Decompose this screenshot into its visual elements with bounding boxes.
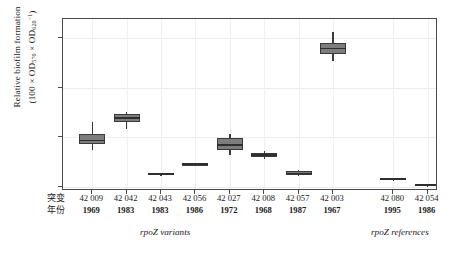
mutation-year: 1967	[311, 205, 353, 217]
y-tick-mark	[58, 186, 62, 187]
box-plot-42003	[320, 19, 346, 190]
x-tick-label-42054: 42 0541986	[406, 193, 448, 216]
x-tick-label-42003: 42 0031967	[311, 193, 353, 216]
box-plot-42080	[380, 19, 406, 190]
whisker-lower	[264, 157, 265, 159]
median-line	[217, 144, 243, 145]
y-axis-title: Relative biofilm formation (100 × OD570 …	[11, 0, 45, 142]
boxplot-figure: Relative biofilm formation (100 × OD570 …	[0, 0, 455, 253]
mutation-year: 1986	[406, 205, 448, 217]
box-plot-42027	[217, 19, 243, 190]
median-line	[286, 173, 312, 174]
median-line	[251, 154, 277, 155]
plot-panel	[62, 18, 437, 190]
box-plot-42056	[182, 19, 208, 190]
box-plot-42009	[79, 19, 105, 190]
box-plot-42054	[415, 19, 437, 190]
y-tick-mark	[58, 136, 62, 137]
group-label-variants: rpoZ variants	[140, 227, 190, 237]
median-line	[320, 48, 346, 49]
row-header-year: 年份	[47, 205, 65, 217]
row-header-chinese: 突变 年份	[47, 193, 65, 216]
mutation-id: 42 054	[406, 193, 448, 205]
mutation-id: 42 003	[311, 193, 353, 205]
median-line	[415, 184, 437, 185]
whisker-lower	[332, 54, 333, 61]
median-line	[79, 140, 105, 141]
whisker-lower	[298, 175, 299, 176]
median-line	[114, 117, 140, 118]
y-tick-mark	[58, 87, 62, 88]
box-plot-42042	[114, 19, 140, 190]
median-line	[380, 178, 406, 179]
group-label-references: rpoZ references	[371, 227, 429, 237]
row-header-mutation: 突变	[47, 193, 65, 205]
y-axis-title-line1: Relative biofilm formation	[11, 0, 24, 142]
whisker-lower	[229, 150, 230, 155]
whisker-lower	[92, 144, 93, 149]
whisker-lower	[126, 122, 127, 129]
whisker-upper	[332, 32, 333, 43]
median-line	[148, 173, 174, 174]
median-line	[182, 163, 208, 164]
whisker-upper	[92, 122, 93, 134]
y-tick-mark	[58, 37, 62, 38]
y-axis-title-line2: (100 × OD570 × OD620−1)	[24, 0, 41, 142]
box-plot-42057	[286, 19, 312, 190]
box-plot-42008	[251, 19, 277, 190]
box-plot-42043	[148, 19, 174, 190]
